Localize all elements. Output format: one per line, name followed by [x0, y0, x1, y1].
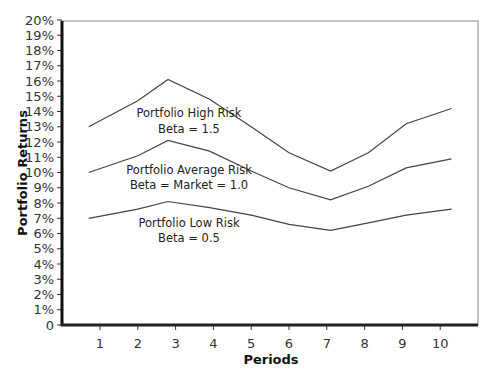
x-tick-label: 2 — [134, 336, 142, 351]
y-tick-label: 2% — [33, 287, 54, 302]
y-tick-label: 5% — [33, 241, 54, 256]
annotation-high-risk: Portfolio High Risk — [137, 106, 242, 120]
y-axis-ticks: 01%2%3%4%5%6%7%8%9%10%11%12%13%14%15%16%… — [25, 13, 62, 333]
plot-frame — [62, 21, 478, 325]
annotation-average-beta: Beta = Market = 1.0 — [130, 178, 248, 192]
x-tick-label: 7 — [323, 336, 331, 351]
line-chart: 01%2%3%4%5%6%7%8%9%10%11%12%13%14%15%16%… — [0, 0, 492, 385]
y-axis-title: Portfolio Returns — [15, 110, 30, 236]
y-tick-label: 0 — [46, 318, 54, 333]
y-tick-label: 17% — [25, 58, 54, 73]
x-tick-label: 6 — [285, 336, 293, 351]
x-tick-label: 9 — [398, 336, 406, 351]
series-line-portfolio-high-risk — [89, 80, 452, 172]
y-tick-label: 15% — [25, 89, 54, 104]
y-tick-label: 18% — [25, 43, 54, 58]
x-tick-label: 8 — [360, 336, 368, 351]
y-tick-label: 3% — [33, 272, 54, 287]
x-tick-label: 1 — [96, 336, 104, 351]
y-tick-label: 6% — [33, 226, 54, 241]
y-tick-label: 7% — [33, 211, 54, 226]
annotation-high-beta: Beta = 1.5 — [158, 122, 220, 136]
y-tick-label: 19% — [25, 28, 54, 43]
x-axis-title: Periods — [243, 352, 298, 367]
annotation-low-risk: Portfolio Low Risk — [138, 216, 239, 230]
x-tick-label: 10 — [432, 336, 449, 351]
x-tick-label: 4 — [209, 336, 217, 351]
y-tick-label: 1% — [33, 302, 54, 317]
annotation-low-beta: Beta = 0.5 — [158, 231, 220, 245]
y-tick-label: 20% — [25, 13, 54, 28]
y-tick-label: 4% — [33, 257, 54, 272]
y-tick-label: 16% — [25, 74, 54, 89]
x-tick-label: 5 — [247, 336, 255, 351]
series-lines — [89, 80, 452, 231]
y-tick-label: 8% — [33, 196, 54, 211]
y-tick-label: 9% — [33, 180, 54, 195]
x-axis-ticks: 12345678910 — [96, 325, 449, 351]
x-tick-label: 3 — [171, 336, 179, 351]
annotation-average-risk: Portfolio Average Risk — [126, 163, 252, 177]
